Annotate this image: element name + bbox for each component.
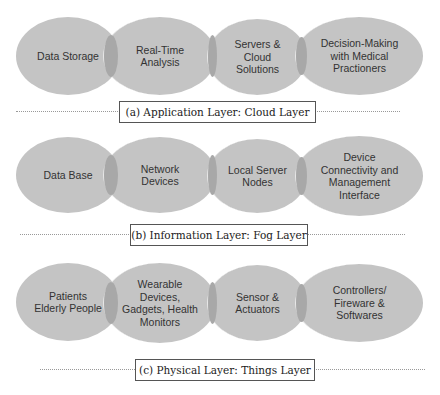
- layer-label-box: (b) Information Layer: Fog Layer: [130, 224, 308, 246]
- ellipse-sensor-actuators: Sensor & Actuators: [207, 265, 307, 341]
- ellipse-local-server-nodes: Local Server Nodes: [207, 139, 307, 213]
- ellipse-device-connectivity: Device Connectivity and Management Inter…: [295, 136, 423, 216]
- ellipse-label: Decision-Making with Medical Practioners: [315, 37, 405, 75]
- ellipse-label: Real-Time Analysis: [130, 44, 190, 69]
- layer-label: (b) Information Layer: Fog Layer: [131, 229, 306, 241]
- overlap-region: [208, 282, 217, 324]
- overlap-region: [208, 155, 217, 195]
- ellipse-label: Patients Elderly People: [28, 290, 108, 315]
- overlap-region: [296, 37, 307, 75]
- overlap-region: [104, 282, 118, 324]
- ellipse-decision-making: Decision-Making with Medical Practioners: [295, 17, 423, 95]
- overlap-region: [208, 35, 217, 77]
- overlap-region: [296, 284, 307, 322]
- overlap-region: [104, 155, 118, 195]
- ellipse-label: Wearable Devices, Gadgets, Health Monito…: [116, 278, 204, 328]
- ellipse-label: Servers & Cloud Solutions: [228, 38, 286, 76]
- ellipse-label: Controllers/ Fireware & Softwares: [327, 284, 393, 322]
- ellipse-network-devices: Network Devices: [103, 137, 216, 213]
- overlap-region: [104, 35, 118, 77]
- ellipse-controllers: Controllers/ Fireware & Softwares: [295, 264, 423, 342]
- layer-label-box: (a) Application Layer: Cloud Layer: [119, 101, 316, 123]
- ellipse-label: Device Connectivity and Management Inter…: [315, 151, 405, 201]
- overlap-region: [296, 157, 307, 195]
- ellipse-label: Data Base: [37, 169, 98, 182]
- ellipse-label: Sensor & Actuators: [229, 291, 285, 316]
- ellipse-wearable-devices: Wearable Devices, Gadgets, Health Monito…: [103, 263, 216, 343]
- ellipse-label: Network Devices: [135, 163, 186, 188]
- ellipse-label: Data Storage: [31, 50, 105, 63]
- layer-label-box: (c) Physical Layer: Things Layer: [135, 359, 315, 381]
- ellipse-label: Local Server Nodes: [222, 164, 293, 189]
- layer-label: (c) Physical Layer: Things Layer: [139, 364, 311, 376]
- layer-label: (a) Application Layer: Cloud Layer: [126, 106, 310, 118]
- ellipse-real-time-analysis: Real-Time Analysis: [103, 17, 216, 95]
- ellipse-servers-cloud: Servers & Cloud Solutions: [207, 19, 307, 95]
